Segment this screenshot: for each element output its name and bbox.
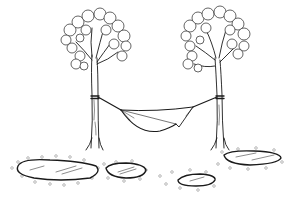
stepping-stones bbox=[11, 147, 284, 192]
hammock-right-rope bbox=[193, 97, 217, 107]
stone-texture bbox=[30, 153, 274, 181]
stone-2 bbox=[106, 163, 146, 178]
hammock-drawing bbox=[0, 0, 294, 203]
pebbles bbox=[11, 147, 284, 192]
stone-3 bbox=[178, 174, 215, 186]
left-tree bbox=[61, 8, 131, 150]
hammock bbox=[98, 97, 217, 132]
right-tree bbox=[181, 6, 250, 150]
stone-1 bbox=[17, 160, 98, 180]
hammock-illustration bbox=[0, 0, 294, 203]
hammock-bottom bbox=[121, 110, 176, 132]
left-tree-canopy bbox=[61, 8, 131, 70]
stone-4 bbox=[224, 151, 281, 165]
hammock-top-edge bbox=[121, 107, 193, 111]
hammock-left-rope bbox=[98, 97, 121, 110]
